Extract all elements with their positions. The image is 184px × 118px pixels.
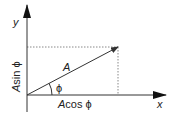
vector-a-arrow bbox=[27, 47, 118, 95]
vector-label: A bbox=[62, 61, 70, 73]
horizontal-component-prefix: A bbox=[57, 98, 65, 110]
angle-arc bbox=[49, 83, 52, 95]
vertical-component-prefix: A bbox=[10, 85, 22, 93]
x-axis-label: x bbox=[156, 98, 163, 110]
vector-component-diagram: y x A ϕ Acos ϕ Asin ϕ bbox=[0, 0, 184, 118]
y-axis-label: y bbox=[12, 16, 20, 28]
horizontal-component-text: cos ϕ bbox=[65, 98, 91, 110]
horizontal-component-label: Acos ϕ bbox=[57, 98, 92, 110]
vertical-component-label: Asin ϕ bbox=[10, 61, 22, 93]
angle-label: ϕ bbox=[56, 82, 62, 94]
vertical-component-text: sin ϕ bbox=[10, 61, 22, 84]
